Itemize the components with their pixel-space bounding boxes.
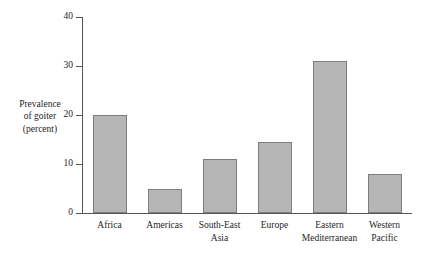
bar-americas	[148, 189, 182, 214]
x-axis-label-western-pacific: WesternPacific	[347, 219, 422, 245]
x-axis-label-line: Western	[347, 219, 422, 232]
y-tick-label: 0	[68, 206, 73, 218]
y-tick-0: 0	[0, 213, 82, 214]
x-axis-label-line: Asia	[182, 232, 257, 245]
x-axis-labels: AfricaAmericasSouth-EastAsiaEuropeEaster…	[82, 219, 412, 259]
bar-eastern-mediterranean	[313, 61, 347, 213]
y-tick-label: 30	[64, 59, 74, 71]
y-tick-20: 20	[0, 115, 82, 116]
y-tick-10: 10	[0, 164, 82, 165]
x-axis-label-line: Pacific	[347, 232, 422, 245]
x-axis-line	[82, 213, 412, 214]
y-tick-30: 30	[0, 66, 82, 67]
bar-europe	[258, 142, 292, 213]
y-tick-label: 20	[64, 108, 74, 120]
y-tick-mark	[76, 213, 82, 214]
bar-western-pacific	[368, 174, 402, 213]
y-tick-40: 40	[0, 17, 82, 18]
bar-africa	[93, 115, 127, 213]
plot-area	[82, 17, 412, 213]
y-axis-title-line-3: (percent)	[4, 123, 76, 135]
bar-south-east-asia	[203, 159, 237, 213]
y-tick-label: 10	[64, 157, 74, 169]
goiter-prevalence-bar-chart: Prevalence of goiter (percent) 010203040…	[0, 0, 424, 260]
y-tick-label: 40	[64, 10, 74, 22]
